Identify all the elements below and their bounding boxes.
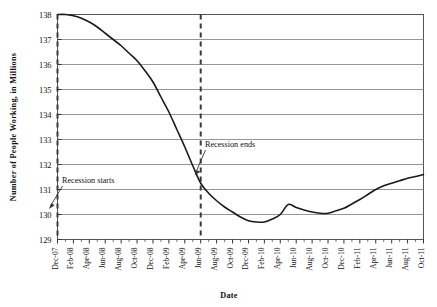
x-axis-tick-label: Oct-08 [130,247,139,268]
y-axis-tick-label: 137 [39,36,52,45]
x-axis-tick-label: Aug-11 [401,247,410,270]
x-axis-title: Date [220,291,238,300]
y-axis-tick-label: 131 [39,186,52,195]
x-axis-tick-label: Aug-09 [210,247,219,270]
x-axis-tick-label: Dec-08 [146,247,155,270]
x-axis-tick-label: Jun-10 [289,247,298,268]
x-axis-tick-label: Apr-08 [82,247,91,269]
x-axis-tick-label: Jun-08 [98,247,107,268]
x-axis-tick-label: Feb-10 [257,247,266,269]
x-axis-tick-label: Dec-10 [337,247,346,270]
recession-starts-label: Recession starts [62,176,115,185]
x-axis-tick-label: Feb-09 [162,247,171,269]
y-axis-tick-label: 132 [39,161,52,170]
x-axis-tick-label: Aug-10 [305,247,314,270]
x-axis-tick-label: Jun-09 [194,247,203,268]
y-axis-tick-label: 130 [39,211,52,220]
x-axis-tick-label: Oct-11 [417,247,426,268]
chart-figure: 129130131132133134135136137138 Dec-07Feb… [0,0,437,307]
y-axis-tick-label: 138 [39,11,52,20]
x-axis-tick-label: Feb-08 [66,247,75,269]
y-axis-tick-label: 136 [39,61,52,70]
y-axis-title: Number of People Working, in Millions [9,53,18,202]
x-axis-tick-label: Oct-10 [321,247,330,268]
y-axis-tick-label: 129 [39,236,52,245]
x-axis-tick-label: Feb-11 [353,247,362,268]
employment-line-chart: 129130131132133134135136137138 Dec-07Feb… [0,0,437,307]
y-axis-tick-label: 133 [39,136,52,145]
x-axis-tick-label: Jun-11 [385,247,394,268]
x-axis-tick-label: Oct-09 [226,247,235,268]
x-axis-tick-label: Apr-09 [178,247,187,269]
y-axis-tick-label: 134 [39,111,52,120]
x-axis-tick-label: Aug-08 [114,247,123,270]
x-axis-tick-label: Apr-11 [369,247,378,269]
x-axis-tick-label: Dec-07 [51,247,60,270]
x-axis-tick-label: Apr-10 [273,247,282,269]
y-axis-tick-label: 135 [39,86,52,95]
recession-ends-label: Recession ends [205,140,255,149]
x-axis-tick-label: Dec-09 [241,247,250,270]
plot-area-border [58,15,424,240]
